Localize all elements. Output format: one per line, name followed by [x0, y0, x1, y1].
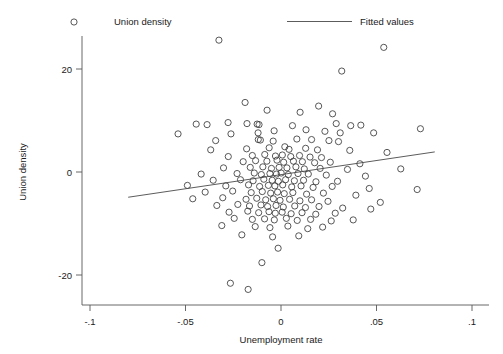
- scatter-plot: Union density Fitted values 20 0 -20 -.1…: [0, 0, 503, 354]
- scatter-point: [272, 210, 278, 216]
- scatter-point: [323, 172, 329, 178]
- scatter-point: [414, 186, 420, 192]
- scatter-point: [313, 179, 319, 185]
- scatter-point: [261, 216, 267, 222]
- scatter-point: [274, 157, 280, 163]
- legend-marker-open-circle-icon: [71, 19, 77, 25]
- scatter-point: [329, 111, 335, 117]
- scatter-point: [253, 158, 259, 164]
- scatter-point: [202, 189, 208, 195]
- scatter-point: [327, 159, 333, 165]
- scatter-point: [314, 147, 320, 153]
- scatter-point: [328, 218, 334, 224]
- scatter-point: [252, 223, 258, 229]
- scatter-point: [230, 188, 236, 194]
- scatter-point: [260, 164, 266, 170]
- y-axis-ticks: 20 0 -20: [58, 64, 82, 281]
- scatter-point: [284, 165, 290, 171]
- scatter-point: [254, 195, 260, 201]
- scatter-point: [270, 234, 276, 240]
- x-tick-label-0: 0: [278, 316, 283, 327]
- scatter-point: [358, 122, 364, 128]
- scatter-point: [362, 173, 368, 179]
- scatter-point: [320, 224, 326, 230]
- scatter-point: [332, 210, 338, 216]
- x-axis-ticks: -.1 -.05 0 .05 .1: [84, 305, 476, 327]
- scatter-point: [335, 139, 341, 145]
- scatter-point: [190, 196, 196, 202]
- scatter-point: [308, 136, 314, 142]
- scatter-point: [303, 191, 309, 197]
- scatter-point: [348, 123, 354, 129]
- scatter-point: [270, 196, 276, 202]
- scatter-point: [264, 158, 270, 164]
- scatter-point: [268, 190, 274, 196]
- scatter-point: [297, 109, 303, 115]
- scatter-point: [234, 170, 240, 176]
- x-tick-label-minus-point05: -.05: [177, 316, 193, 327]
- scatter-point: [318, 154, 324, 160]
- scatter-point: [316, 103, 322, 109]
- x-tick-label-minus-point1: -.1: [84, 316, 95, 327]
- scatter-point: [313, 211, 319, 217]
- scatter-point: [272, 183, 278, 189]
- scatter-point: [256, 210, 262, 216]
- chart-figure: Union density Fitted values 20 0 -20 -.1…: [0, 0, 503, 354]
- scatter-point: [340, 205, 346, 211]
- scatter-point: [272, 153, 278, 159]
- scatter-point: [226, 209, 232, 215]
- scatter-point: [275, 245, 281, 251]
- scatter-point: [366, 185, 372, 191]
- legend-entry-union-density: Union density: [71, 16, 172, 27]
- scatter-point: [292, 203, 298, 209]
- scatter-point: [320, 190, 326, 196]
- scatter-point: [220, 165, 226, 171]
- scatter-point: [216, 37, 222, 43]
- scatter-point: [245, 182, 251, 188]
- scatter-point: [270, 138, 276, 144]
- scatter-point: [271, 128, 277, 134]
- scatter-point: [381, 44, 387, 50]
- scatter-point: [288, 153, 294, 159]
- scatter-point: [274, 189, 280, 195]
- scatter-point: [417, 126, 423, 132]
- scatter-point: [280, 182, 286, 188]
- scatter-point: [248, 190, 254, 196]
- scatter-point: [296, 233, 302, 239]
- scatter-point: [262, 151, 268, 157]
- y-tick-label-20: 20: [61, 64, 72, 75]
- legend-entry-fitted-values: Fitted values: [287, 16, 414, 27]
- scatter-point: [259, 260, 265, 266]
- scatter-point: [244, 146, 250, 152]
- scatter-point: [279, 152, 285, 158]
- scatter-point: [228, 131, 234, 137]
- scatter-point: [175, 131, 181, 137]
- scatter-point: [357, 161, 363, 167]
- scatter-point: [377, 199, 383, 205]
- scatter-point: [225, 119, 231, 125]
- scatter-point: [247, 164, 253, 170]
- scatter-point: [337, 130, 343, 136]
- scatter-point: [243, 196, 249, 202]
- scatter-point: [287, 196, 293, 202]
- scatter-point: [398, 166, 404, 172]
- x-tick-label-point1: .1: [468, 316, 476, 327]
- scatter-point: [305, 171, 311, 177]
- scatter-point: [339, 68, 345, 74]
- legend-label-fitted-values: Fitted values: [360, 16, 414, 27]
- scatter-point: [329, 183, 335, 189]
- y-tick-label-minus20: -20: [58, 270, 72, 281]
- scatter-point: [263, 197, 269, 203]
- scatter-point: [281, 191, 287, 197]
- scatter-point: [273, 202, 279, 208]
- scatter-point: [293, 164, 299, 170]
- scatter-point: [258, 202, 264, 208]
- scatter-point: [204, 122, 210, 128]
- scatter-point: [310, 184, 316, 190]
- scatter-point: [290, 190, 296, 196]
- fitted-line-layer: [128, 152, 435, 197]
- scatter-point: [353, 192, 359, 198]
- scatter-point: [308, 216, 314, 222]
- scatter-point: [294, 217, 300, 223]
- scatter-point: [325, 198, 331, 204]
